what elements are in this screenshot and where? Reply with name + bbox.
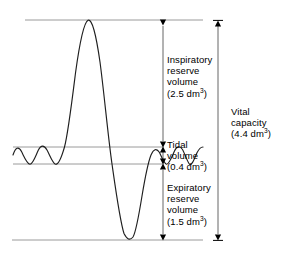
tv-label-value: (0.4 dm3) bbox=[167, 161, 207, 172]
vc-arrow bbox=[213, 20, 223, 240]
spirogram-figure: Inspiratory reserve volume (2.5 dm3) Tid… bbox=[0, 0, 294, 254]
erv-label-value: (1.5 dm3) bbox=[167, 216, 211, 227]
irv-label-line-3: volume bbox=[167, 76, 212, 87]
label-tidal-volume: Tidal volume (0.4 dm3) bbox=[167, 139, 207, 173]
irv-value-prefix: (2.5 dm bbox=[167, 88, 200, 99]
erv-value-prefix: (1.5 dm bbox=[167, 216, 200, 227]
label-expiratory-reserve-volume: Expiratory reserve volume (1.5 dm3) bbox=[167, 182, 211, 227]
erv-value-suffix: ) bbox=[204, 216, 207, 227]
erv-label-line-3: volume bbox=[167, 204, 211, 215]
vc-label-value: (4.4 dm3) bbox=[231, 128, 271, 139]
label-vital-capacity: Vital capacity (4.4 dm3) bbox=[231, 106, 271, 140]
tv-label-line-1: Tidal bbox=[167, 139, 207, 150]
vc-label-line-1: Vital bbox=[231, 106, 271, 117]
irv-arrow bbox=[160, 20, 166, 148]
irv-value-suffix: ) bbox=[204, 88, 207, 99]
vc-value-prefix: (4.4 dm bbox=[231, 128, 264, 139]
tv-value-prefix: (0.4 dm bbox=[167, 161, 200, 172]
erv-arrow bbox=[160, 164, 166, 241]
irv-label-line-2: reserve bbox=[167, 65, 212, 76]
vc-value-suffix: ) bbox=[268, 128, 271, 139]
erv-label-line-1: Expiratory bbox=[167, 182, 211, 193]
label-inspiratory-reserve-volume: Inspiratory reserve volume (2.5 dm3) bbox=[167, 54, 212, 99]
erv-label-line-2: reserve bbox=[167, 193, 211, 204]
irv-label-value: (2.5 dm3) bbox=[167, 88, 212, 99]
tv-value-suffix: ) bbox=[204, 161, 207, 172]
irv-label-line-1: Inspiratory bbox=[167, 54, 212, 65]
